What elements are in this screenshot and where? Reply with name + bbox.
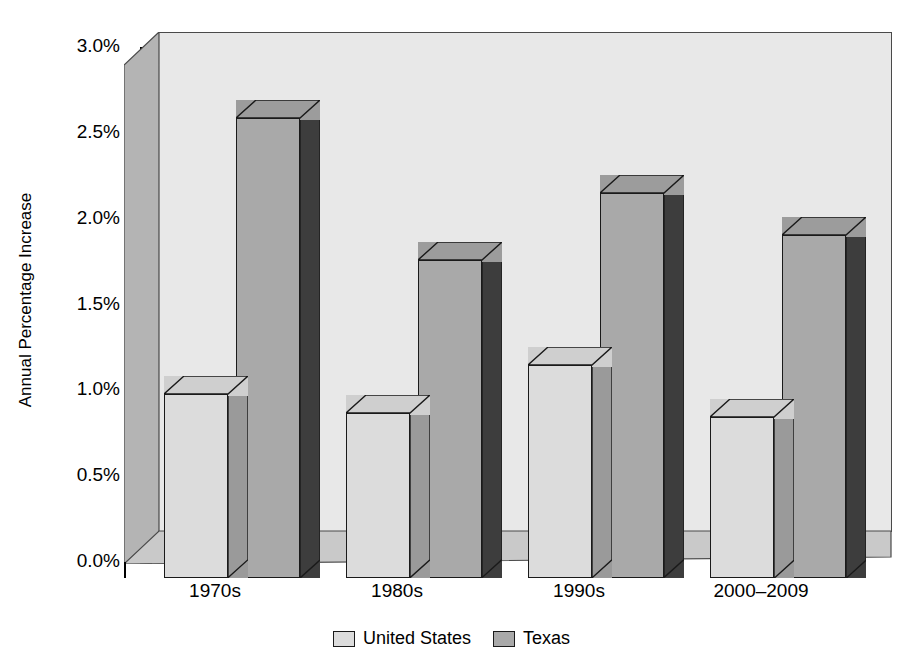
y-tick-label: 0.5% [42, 465, 120, 484]
chart-root: Annual Percentage Increase 0.0%0.5%1.0%1… [0, 0, 903, 664]
x-tick-mark [124, 562, 126, 578]
y-tick-label: 2.0% [42, 208, 120, 227]
x-axis-label-1970s: 1970s [135, 580, 295, 602]
y-tick-label: 2.5% [42, 122, 120, 141]
bar-top-face [710, 399, 794, 419]
bar-side-face [482, 242, 502, 578]
bar-side-face [300, 100, 320, 578]
bar-texas-1990s [600, 175, 684, 578]
y-tick-label: 1.5% [42, 294, 120, 313]
y-axis-ticks: 0.0%0.5%1.0%1.5%2.0%2.5%3.0% [28, 0, 120, 664]
plot-left-wall [124, 32, 160, 564]
legend-label-united-states: United States [363, 628, 471, 649]
bar-side-face [410, 395, 430, 578]
legend-item-united-states[interactable]: United States [333, 628, 471, 649]
x-axis-label-1980s: 1980s [317, 580, 477, 602]
x-axis-label-1990s: 1990s [499, 580, 659, 602]
bar-top-face [418, 242, 502, 262]
legend-item-texas[interactable]: Texas [493, 628, 570, 649]
plot-area [124, 32, 892, 564]
bar-front-face [346, 413, 410, 578]
bar-front-face [164, 394, 228, 578]
bar-top-face [346, 395, 430, 415]
bar-texas-1980s [418, 242, 502, 578]
bar-top-face [528, 347, 612, 367]
bar-front-face [528, 365, 592, 578]
legend-swatch-texas-icon [493, 631, 515, 647]
y-tick-label: 0.0% [42, 551, 120, 570]
bar-united-states-1980s [346, 395, 430, 578]
bar-top-face [236, 100, 320, 120]
y-tick-label: 3.0% [42, 36, 120, 55]
chart-legend: United States Texas [0, 628, 903, 649]
bar-top-face [782, 217, 866, 237]
bar-front-face [710, 417, 774, 578]
x-axis-label-2000–2009: 2000–2009 [681, 580, 841, 602]
bar-top-face [600, 175, 684, 195]
bar-united-states-2000–2009 [710, 399, 794, 578]
bar-side-face [846, 217, 866, 578]
y-tick-label: 1.0% [42, 379, 120, 398]
x-axis-labels: 1970s1980s1990s2000–2009 [0, 578, 903, 608]
bar-top-face [164, 376, 248, 396]
bar-side-face [774, 399, 794, 578]
bar-side-face [228, 376, 248, 578]
bar-texas-1970s [236, 100, 320, 578]
bar-side-face [592, 347, 612, 578]
legend-label-texas: Texas [523, 628, 570, 649]
bar-united-states-1990s [528, 347, 612, 578]
bar-texas-2000–2009 [782, 217, 866, 578]
bar-united-states-1970s [164, 376, 248, 578]
legend-swatch-united-states-icon [333, 631, 355, 647]
bar-side-face [664, 175, 684, 578]
